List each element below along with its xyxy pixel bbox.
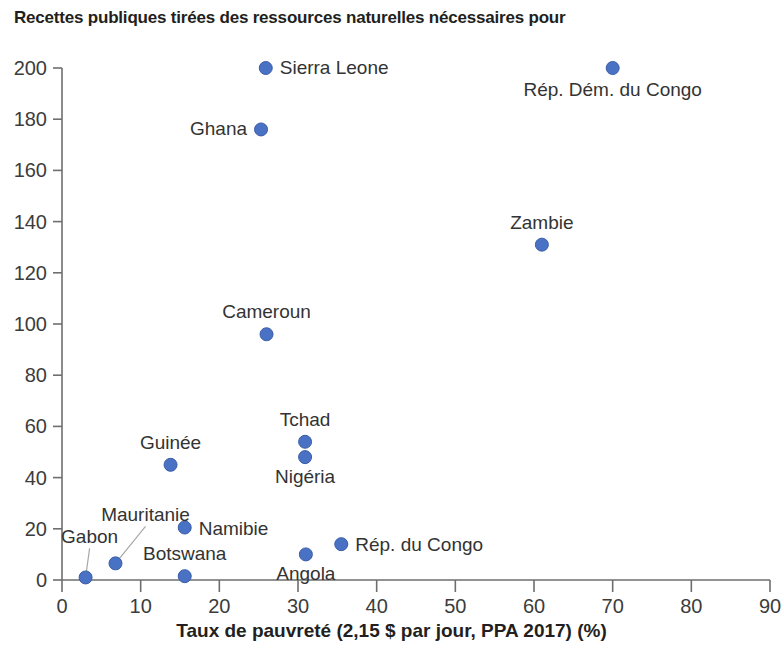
data-point[interactable] <box>255 123 268 136</box>
y-tick-label: 160 <box>14 159 47 181</box>
data-point[interactable] <box>164 458 177 471</box>
x-tick-label: 70 <box>602 595 624 617</box>
data-point-label: Rép. du Congo <box>355 534 483 555</box>
x-axis-ticks: 0102030405060708090 <box>56 580 781 617</box>
y-tick-label: 180 <box>14 108 47 130</box>
y-tick-label: 60 <box>25 415 47 437</box>
data-point-label: Mauritanie <box>101 504 190 525</box>
scatter-plot: 020406080100120140160180200 010203040506… <box>0 0 783 653</box>
data-point-label: Gabon <box>61 526 118 547</box>
y-tick-label: 200 <box>14 57 47 79</box>
data-point-label: Zambie <box>510 212 573 233</box>
data-point[interactable] <box>299 435 312 448</box>
leader-line <box>115 526 145 563</box>
y-tick-label: 140 <box>14 211 47 233</box>
data-point[interactable] <box>606 62 619 75</box>
y-axis: 020406080100120140160180200 <box>14 57 62 591</box>
data-point-label: Cameroun <box>222 301 311 322</box>
x-tick-label: 90 <box>759 595 781 617</box>
x-tick-label: 10 <box>130 595 152 617</box>
data-point[interactable] <box>335 538 348 551</box>
y-tick-label: 100 <box>14 313 47 335</box>
data-point[interactable] <box>109 557 122 570</box>
x-axis: 0102030405060708090 <box>56 580 781 617</box>
chart-container: Recettes publiques tirées des ressources… <box>0 0 783 653</box>
data-point-label: Sierra Leone <box>280 57 389 78</box>
data-point[interactable] <box>178 570 191 583</box>
x-axis-title: Taux de pauvreté (2,15 $ par jour, PPA 2… <box>0 620 783 642</box>
y-tick-label: 40 <box>25 467 47 489</box>
data-point[interactable] <box>535 238 548 251</box>
data-point-label: Guinée <box>140 432 201 453</box>
data-point-label: Nigéria <box>275 466 336 487</box>
data-point-label: Rép. Dém. du Congo <box>523 79 702 100</box>
y-tick-label: 120 <box>14 262 47 284</box>
data-point-label: Tchad <box>280 409 331 430</box>
x-tick-label: 50 <box>444 595 466 617</box>
data-point[interactable] <box>260 328 273 341</box>
data-point-label: Namibie <box>199 518 269 539</box>
x-tick-label: 20 <box>208 595 230 617</box>
x-tick-label: 60 <box>523 595 545 617</box>
x-tick-label: 30 <box>287 595 309 617</box>
data-point-label: Angola <box>276 563 336 584</box>
y-axis-ticks: 020406080100120140160180200 <box>14 57 62 591</box>
x-tick-label: 40 <box>366 595 388 617</box>
data-point[interactable] <box>79 571 92 584</box>
data-point[interactable] <box>259 62 272 75</box>
y-tick-label: 0 <box>36 569 47 591</box>
data-point-label: Ghana <box>190 118 247 139</box>
x-tick-label: 80 <box>680 595 702 617</box>
x-tick-label: 0 <box>56 595 67 617</box>
data-point-label: Botswana <box>143 543 227 564</box>
data-point[interactable] <box>299 451 312 464</box>
data-point[interactable] <box>299 548 312 561</box>
y-tick-label: 80 <box>25 364 47 386</box>
y-tick-label: 20 <box>25 518 47 540</box>
data-point-labels-group: Sierra LeoneRép. Dém. du CongoGhanaZambi… <box>61 57 702 584</box>
